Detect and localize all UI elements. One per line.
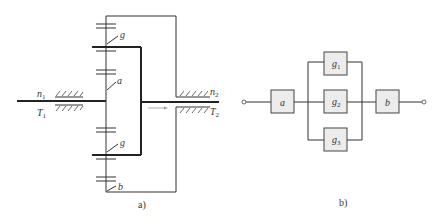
output-terminal: [422, 100, 426, 104]
label-output-speed: n2: [210, 86, 219, 99]
label-sun: a: [117, 75, 122, 86]
figure-b: a g1 g2 g3 b b): [242, 52, 426, 209]
caption-a: a): [138, 199, 146, 211]
caption-b: b): [339, 197, 347, 209]
label-input-torque: T1: [37, 107, 47, 120]
label-planet-top: g: [120, 29, 125, 40]
diagram-canvas: g a g b n1 T1 n2 T2 a) a g1 g2 g3: [0, 0, 439, 224]
block-a-label: a: [280, 97, 285, 108]
gear-mesh-planet-top: [92, 47, 141, 51]
input-terminal: [242, 100, 246, 104]
label-output-torque: T2: [210, 106, 220, 119]
block-b-label: b: [385, 97, 390, 108]
ring-frame-bottom: [106, 107, 210, 192]
figure-a: g a g b n1 T1 n2 T2 a): [17, 16, 220, 211]
label-input-speed: n1: [37, 88, 46, 101]
label-ring: b: [118, 181, 123, 192]
label-planet-bottom: g: [120, 137, 125, 148]
direction-arrow: [148, 107, 168, 110]
gear-mesh-planet-bottom: [92, 155, 141, 159]
